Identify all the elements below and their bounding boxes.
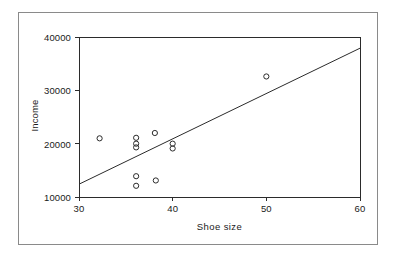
scatter-point — [134, 145, 139, 150]
x-axis-ticks — [79, 197, 360, 201]
scatter-point — [152, 130, 157, 135]
scatter-point — [134, 174, 139, 179]
scatter-point — [264, 74, 269, 79]
scatter-point — [134, 183, 139, 188]
scatter-marker-group — [97, 74, 269, 189]
scatter-point — [134, 135, 139, 140]
y-axis-tick-label: 40000 — [30, 32, 71, 43]
y-axis-title: Income — [29, 86, 40, 146]
scatter-point — [153, 178, 158, 183]
scatter-point — [97, 136, 102, 141]
x-axis-tick-label: 40 — [167, 203, 178, 214]
x-axis-tick-label: 50 — [261, 203, 272, 214]
y-axis-ticks — [75, 37, 79, 197]
x-axis-tick-label: 60 — [355, 203, 366, 214]
figure-root: 10000200003000040000 30405060 Income Sho… — [0, 0, 397, 259]
x-axis-tick-label: 30 — [74, 203, 85, 214]
y-axis-tick-label: 10000 — [30, 192, 71, 203]
regression-trend-line — [79, 48, 360, 184]
x-axis-title: Shoe size — [79, 221, 360, 232]
axis-spines — [79, 37, 360, 197]
